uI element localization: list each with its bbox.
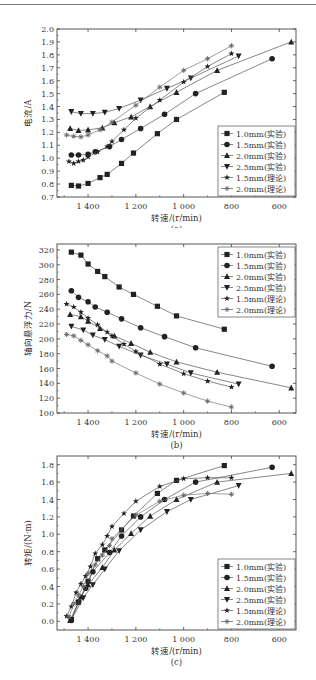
asterisk-marker	[107, 543, 112, 548]
circle-marker	[269, 465, 275, 471]
y-tick-label: 1.0	[41, 530, 54, 539]
y-tick-label: 0.8	[41, 548, 54, 557]
x-tick-label: 1 000	[172, 635, 195, 644]
legend-label: 1.0mm(实验)	[236, 562, 286, 572]
asterisk-marker	[109, 536, 114, 541]
y-tick-label: 0.0	[41, 617, 54, 626]
x-axis-title: 转速/(r/min)	[151, 646, 202, 656]
y-tick-label: 1.8	[41, 461, 54, 470]
chart-caption: (c)	[171, 657, 182, 667]
circle-marker	[193, 479, 199, 485]
triangle-down-marker	[164, 509, 170, 515]
legend-label: 2.0mm(实验)	[236, 584, 286, 594]
y-tick-label: 1.2	[41, 513, 54, 522]
asterisk-marker	[229, 492, 234, 497]
x-tick-label: 800	[224, 635, 239, 644]
triangle-up-marker	[288, 470, 294, 476]
asterisk-marker	[100, 553, 105, 558]
y-tick-label: 0.6	[41, 565, 54, 574]
square-marker	[155, 491, 160, 496]
legend: 1.0mm(实验)1.5mm(实验)2.0mm(实验)2.5mm(实验)1.5m…	[218, 559, 295, 629]
asterisk-marker	[157, 499, 162, 504]
asterisk-marker	[181, 493, 186, 498]
y-tick-label: 1.6	[41, 478, 54, 487]
asterisk-marker	[76, 593, 81, 598]
asterisk-marker	[81, 584, 86, 589]
series-star	[64, 475, 235, 619]
square-marker	[224, 564, 229, 569]
triangle-down-marker	[188, 497, 194, 503]
y-tick-label: 0.2	[41, 600, 54, 609]
series-square	[69, 463, 227, 622]
legend-label: 2.0mm(理论)	[236, 617, 286, 627]
circle-marker	[138, 514, 144, 520]
asterisk-marker	[66, 614, 71, 619]
y-tick-label: 1.4	[41, 496, 54, 505]
x-tick-label: 1 400	[77, 635, 100, 644]
legend-label: 1.5mm(实验)	[236, 573, 286, 583]
y-axis-title: 转矩/(N·m)	[23, 520, 33, 566]
star-marker	[104, 533, 110, 539]
star-marker	[181, 475, 187, 481]
y-tick-label: 0.4	[41, 583, 54, 592]
legend-label: 2.5mm(实验)	[236, 595, 286, 605]
asterisk-marker	[205, 491, 210, 496]
asterisk-marker	[93, 562, 98, 567]
chart-torque: 0.00.20.40.60.81.01.21.41.61.81 4001 200…	[0, 0, 316, 680]
circle-marker	[224, 575, 230, 581]
legend-label: 1.5mm(理论)	[236, 606, 286, 616]
asterisk-marker	[85, 571, 90, 576]
square-marker	[119, 527, 124, 532]
star-marker	[99, 542, 105, 548]
circle-marker	[119, 533, 125, 539]
x-tick-label: 600	[272, 635, 287, 644]
asterisk-marker	[133, 513, 138, 518]
x-tick-label: 1 200	[124, 635, 147, 644]
asterisk-marker	[224, 619, 229, 624]
square-marker	[222, 463, 227, 468]
triangle-up-marker	[147, 513, 153, 519]
